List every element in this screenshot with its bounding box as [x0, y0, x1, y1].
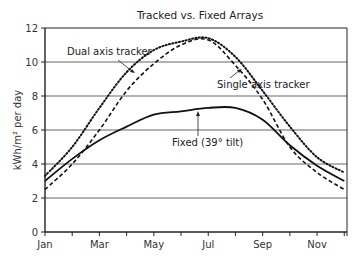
series-lines: [45, 37, 344, 189]
series-line: [45, 37, 344, 176]
arrowhead-dual-axis: [130, 69, 135, 73]
chart: Tracked vs. Fixed Arrays 024681012 JanMa…: [0, 0, 359, 262]
x-tick-label: May: [143, 239, 164, 250]
x-tick-label: Mar: [90, 239, 110, 250]
y-tick-label: 8: [32, 91, 38, 102]
x-tick-label: Jan: [36, 239, 52, 250]
y-tick-label: 0: [32, 227, 38, 238]
y-tick-label: 6: [32, 125, 38, 136]
y-tick-label: 10: [25, 57, 38, 68]
y-axis-ticks: 024681012: [25, 23, 45, 238]
x-tick-label: Nov: [307, 239, 327, 250]
axes: [45, 28, 347, 236]
y-tick-label: 4: [32, 159, 38, 170]
y-tick-label: 12: [25, 23, 38, 34]
series-line: [45, 39, 344, 190]
arrowhead-fixed: [196, 111, 200, 116]
annotation-dual-axis: Dual axis tracker: [67, 46, 153, 57]
x-tick-label: Sep: [253, 239, 272, 250]
y-tick-label: 2: [32, 193, 38, 204]
annotations: Dual axis tracker Single axis tracker Fi…: [67, 46, 310, 148]
x-axis-ticks: JanMarMayJulSepNov: [36, 232, 344, 250]
chart-title: Tracked vs. Fixed Arrays: [136, 9, 263, 21]
x-tick-label: Jul: [201, 239, 214, 250]
annotation-fixed: Fixed (39° tilt): [172, 137, 243, 148]
annotation-single-axis: Single axis tracker: [217, 79, 310, 90]
y-axis-label: kWh/m² per day: [12, 90, 23, 171]
